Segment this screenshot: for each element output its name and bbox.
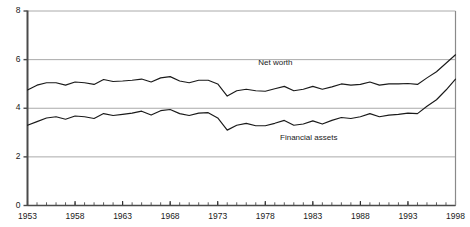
data-series-group xyxy=(28,55,456,130)
x-tick-label: 1988 xyxy=(340,212,380,221)
series-line-2 xyxy=(28,79,456,130)
y-tick-label: 2 xyxy=(1,152,21,161)
x-tick-label: 1978 xyxy=(245,212,285,221)
series-label-2: Financial assets xyxy=(280,133,337,142)
y-tick-label: 4 xyxy=(1,103,21,112)
x-tick-label: 1958 xyxy=(55,212,95,221)
series-line-1 xyxy=(28,55,456,96)
x-tick-label: 1963 xyxy=(103,212,143,221)
y-tick-label: 6 xyxy=(1,55,21,64)
x-tick-label: 1953 xyxy=(8,212,48,221)
x-tick-label: 1973 xyxy=(198,212,238,221)
x-tick-label: 1983 xyxy=(293,212,333,221)
x-tick-label: 1993 xyxy=(388,212,428,221)
y-tick-label: 8 xyxy=(1,6,21,15)
x-tick-label: 1998 xyxy=(436,212,470,221)
series-label-1: Net worth xyxy=(258,58,292,67)
x-tick-label: 1968 xyxy=(150,212,190,221)
y-tick-label: 0 xyxy=(1,201,21,210)
